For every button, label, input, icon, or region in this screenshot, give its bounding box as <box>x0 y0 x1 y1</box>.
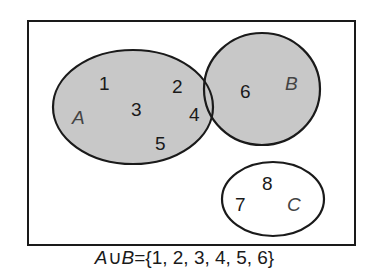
element-6: 6 <box>240 81 251 102</box>
union-caption: A∪B={1, 2, 3, 4, 5, 6} <box>0 246 369 269</box>
set-a-label: A <box>71 107 85 128</box>
set-b-label: B <box>285 73 298 94</box>
element-5: 5 <box>155 133 166 154</box>
element-3: 3 <box>131 99 142 120</box>
caption-equals: = <box>134 247 145 268</box>
element-7: 7 <box>235 194 246 215</box>
element-1: 1 <box>99 73 110 94</box>
caption-set-a: A <box>95 247 108 268</box>
caption-result-set: {1, 2, 3, 4, 5, 6} <box>145 247 274 268</box>
caption-set-b: B <box>122 247 135 268</box>
element-4: 4 <box>189 104 200 125</box>
caption-union-symbol: ∪ <box>108 247 122 268</box>
element-2: 2 <box>172 76 183 97</box>
venn-diagram: 1 3 5 2 4 6 8 7 A B C <box>0 0 369 273</box>
element-8: 8 <box>262 173 273 194</box>
set-c-label: C <box>287 194 301 215</box>
